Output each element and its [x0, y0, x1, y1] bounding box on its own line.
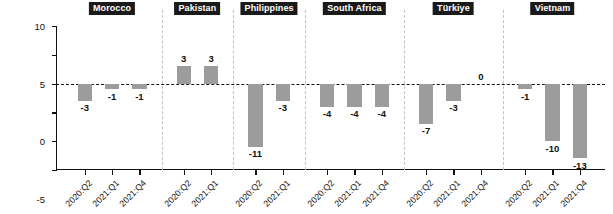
bar-value-label: -3	[449, 103, 457, 113]
x-tick-mark	[184, 170, 185, 175]
bar-value-label: -3	[80, 103, 88, 113]
group-separator	[233, 10, 234, 170]
x-tick-mark	[552, 170, 553, 175]
bar-value-label: -11	[249, 149, 262, 159]
bar-value-label: -1	[135, 92, 143, 102]
x-tick-mark	[211, 170, 212, 175]
x-tick-mark	[139, 170, 140, 175]
y-axis-spine	[56, 26, 57, 170]
bar-value-label: -4	[378, 109, 386, 119]
bar	[177, 66, 191, 83]
bar	[375, 84, 389, 107]
y-tick-mark: 5	[52, 55, 57, 56]
bar-value-label: -4	[350, 109, 358, 119]
bar-value-label: 0	[478, 72, 483, 82]
group-label-türkiye: Türkiye	[433, 2, 474, 15]
bar	[132, 84, 146, 90]
bar	[276, 84, 290, 101]
y-tick-label: 5	[40, 78, 45, 89]
bar-value-label: -4	[323, 109, 331, 119]
bar	[248, 84, 262, 147]
x-tick-mark	[327, 170, 328, 175]
bar-value-label: -1	[108, 92, 116, 102]
bar-value-label: -1	[521, 92, 529, 102]
bar-value-label: -3	[279, 103, 287, 113]
group-label-philippines: Philippines	[241, 2, 298, 15]
group-label-pakistan: Pakistan	[174, 2, 220, 15]
bar-value-label: 3	[181, 54, 186, 64]
bar-value-label: 3	[208, 54, 213, 64]
y-tick-mark: 10	[52, 26, 57, 27]
plot-area: 1050-5-10-15 MoroccoPakistanPhilippinesS…	[56, 26, 605, 170]
y-axis-title: Percentage point change	[2, 0, 16, 28]
x-tick-mark	[525, 170, 526, 175]
bar	[78, 84, 92, 101]
x-tick-mark	[481, 170, 482, 175]
y-tick-label: 10	[34, 21, 45, 32]
x-tick-mark	[453, 170, 454, 175]
bar	[419, 84, 433, 124]
x-tick-mark	[283, 170, 284, 175]
bar	[573, 84, 587, 159]
x-tick-mark	[580, 170, 581, 175]
y-tick-label: -5	[37, 193, 45, 204]
y-tick-label: 0	[40, 136, 45, 147]
bar	[446, 84, 460, 101]
bar	[204, 66, 218, 83]
chart-figure: Percentage point change 1050-5-10-15 Mor…	[0, 0, 613, 214]
bar	[105, 84, 119, 90]
x-tick-mark	[112, 170, 113, 175]
group-separator	[404, 10, 405, 170]
x-tick-mark	[255, 170, 256, 175]
x-tick-mark	[382, 170, 383, 175]
group-label-morocco: Morocco	[89, 2, 135, 15]
y-tick-mark: -15	[52, 170, 57, 171]
bar	[347, 84, 361, 107]
bar	[518, 84, 532, 90]
group-separator	[305, 10, 306, 170]
x-tick-mark	[354, 170, 355, 175]
group-separator	[503, 10, 504, 170]
group-separator	[162, 10, 163, 170]
bar-value-label: -7	[422, 126, 430, 136]
bar	[545, 84, 559, 142]
x-axis-spine	[56, 169, 605, 170]
y-tick-mark: -5	[52, 112, 57, 113]
group-label-south-africa: South Africa	[323, 2, 385, 15]
x-tick-mark	[426, 170, 427, 175]
x-tick-mark	[85, 170, 86, 175]
group-label-vietnam: Vietnam	[531, 2, 575, 15]
y-tick-mark: -10	[52, 141, 57, 142]
bar-value-label: -10	[546, 144, 560, 154]
bar	[320, 84, 334, 107]
